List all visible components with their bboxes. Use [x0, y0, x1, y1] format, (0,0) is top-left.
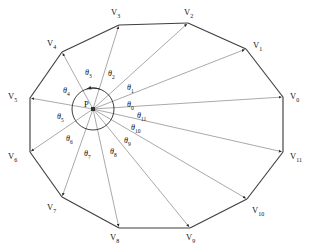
angle-label-index: 7: [88, 154, 91, 160]
angle-label-index: 0: [131, 105, 134, 111]
vertex-label-index: 3: [117, 13, 120, 19]
vertex-label-index: 1: [259, 46, 262, 52]
polygon-edge-v7-v8: [62, 197, 119, 228]
angle-label-index: 6: [70, 139, 73, 145]
polygon-edge-v2-v3: [119, 23, 188, 25]
vertex-label-v4: V4: [47, 39, 56, 50]
angle-label-theta2: θ2: [108, 70, 115, 80]
center-rays: [31, 24, 281, 227]
angle-label-theta6: θ6: [66, 135, 73, 145]
angle-label-index: 1: [131, 88, 134, 94]
vertex-label-index: 6: [14, 157, 17, 163]
center-point-label: P: [84, 100, 89, 109]
vertex-label-v6: V6: [8, 152, 17, 163]
angle-label-theta3: θ3: [85, 69, 92, 79]
angle-label-theta9: θ9: [124, 137, 131, 147]
vertex-label-v3: V3: [111, 8, 120, 19]
vertex-label-index: 2: [190, 13, 193, 19]
vertex-label-v10: V10: [252, 206, 264, 217]
angle-label-theta11: θ11: [137, 112, 146, 122]
vertex-label-index: 9: [192, 238, 195, 244]
angle-label-theta5: θ5: [57, 113, 64, 123]
center-circle-group: [72, 88, 114, 130]
angle-label-index: 2: [112, 74, 115, 80]
vertex-label-v2: V2: [184, 8, 193, 19]
polygon-edge-v6-v7: [30, 152, 62, 197]
angle-label-index: 10: [135, 128, 141, 134]
ray-p-to-v1: [93, 50, 245, 109]
polygon-edge-v4-v5: [30, 52, 62, 98]
angle-label-theta7: θ7: [84, 150, 91, 160]
diagram-canvas: V0V1V2V3V4V5V6V7V8V9V10V11 θ0θ1θ2θ3θ4θ5θ…: [0, 0, 313, 251]
polygon-edge-v3-v4: [62, 25, 119, 52]
vertex-label-v9: V9: [186, 233, 195, 244]
center-point-marker: [91, 107, 95, 111]
vertex-label-index: 10: [258, 211, 264, 217]
ray-p-to-v3: [93, 26, 119, 109]
angle-label-theta10: θ10: [131, 124, 140, 134]
vertex-label-index: 7: [53, 208, 56, 214]
angle-label-theta0: θ0: [127, 101, 134, 111]
angle-label-index: 9: [128, 141, 131, 147]
angle-label-theta4: θ4: [63, 87, 70, 97]
circle-direction-arrow: [87, 88, 99, 89]
polygon-edge-v9-v10: [190, 199, 247, 228]
ray-p-to-v8: [93, 109, 119, 227]
angle-label-index: 4: [67, 91, 70, 97]
vertex-label-index: 0: [296, 97, 299, 103]
polygon-edge-v10-v11: [247, 152, 283, 199]
polygon-edge-v1-v2: [188, 23, 246, 49]
polygon-edges: [30, 23, 283, 228]
vertex-label-index: 11: [296, 157, 302, 163]
vertex-label-index: 8: [116, 238, 119, 244]
polygon-edge-v0-v1: [246, 49, 283, 97]
vertex-label-v8: V8: [110, 233, 119, 244]
vertex-label-index: 5: [14, 97, 17, 103]
vertex-label-index: 4: [53, 44, 56, 50]
vertex-label-v5: V5: [8, 92, 17, 103]
vertex-label-v1: V1: [253, 41, 262, 52]
ray-p-to-v11: [93, 109, 282, 152]
ray-p-to-v2: [93, 24, 187, 109]
angle-label-index: 5: [61, 117, 64, 123]
vertex-label-v7: V7: [47, 203, 56, 214]
angle-label-theta8: θ8: [110, 148, 117, 158]
angle-label-index: 11: [141, 116, 146, 122]
angle-label-theta1: θ1: [127, 84, 134, 94]
vertex-label-v11: V11: [290, 152, 302, 163]
vertex-label-v0: V0: [290, 92, 299, 103]
angle-label-index: 3: [89, 73, 92, 79]
ray-p-to-v9: [93, 109, 189, 227]
ray-p-to-v0: [93, 97, 282, 109]
angle-label-index: 8: [114, 152, 117, 158]
